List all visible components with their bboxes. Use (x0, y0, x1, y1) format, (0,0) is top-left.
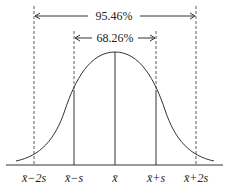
axis-label-plus-2s: x̄+2s (183, 171, 208, 185)
interval-arrow-68: 68.26% (75, 31, 155, 45)
axis-label-minus-2s: x̄−2s (21, 171, 46, 185)
interval-arrow-95: 95.46% (35, 9, 195, 23)
interval-label-95: 95.46% (96, 9, 133, 23)
axis-label-plus-s: x̄+s (146, 171, 165, 185)
normal-distribution-diagram: 95.46% 68.26% x̄−2s x̄−s x̄ x̄+s x̄+2s (0, 0, 229, 190)
interval-label-68: 68.26% (97, 31, 134, 45)
axis-label-mean: x̄ (111, 171, 118, 185)
axis-label-minus-s: x̄−s (64, 171, 83, 185)
